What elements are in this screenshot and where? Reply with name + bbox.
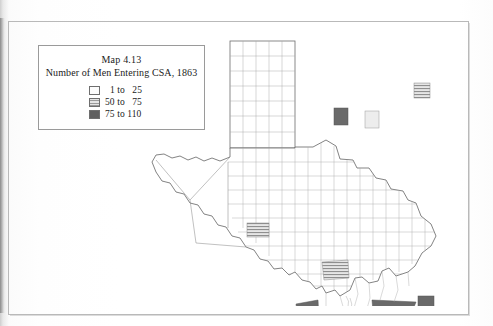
hatched-swatch-icon [89,98,100,107]
county-shaded [334,108,348,125]
book-spine-shadow [0,18,5,313]
county-shaded [365,111,379,128]
dark-swatch-icon [89,110,100,119]
county-shaded [418,296,434,306]
county-shaded [296,300,319,306]
light-swatch-icon [89,86,100,95]
texas-county-map [150,28,450,306]
county-shaded [322,260,349,280]
legend-item-label: 50 to 75 [105,97,142,107]
legend-item-label: 1 to 25 [105,85,142,95]
county-shaded [372,300,416,306]
page-root: Map 4.13 Number of Men Entering CSA, 186… [0,0,493,326]
legend-item-label: 75 to 110 [105,109,141,119]
county-shaded [247,223,269,237]
county-shaded [414,83,430,98]
